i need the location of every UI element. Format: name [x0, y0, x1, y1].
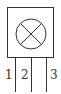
- component-diagram: 1 2 3: [0, 0, 61, 94]
- pin-2-label: 2: [21, 68, 29, 82]
- crossed-circle-icon: [16, 19, 46, 49]
- pin-3-label: 3: [50, 68, 58, 82]
- pin-1-label: 1: [5, 68, 13, 82]
- component-body: [8, 8, 54, 58]
